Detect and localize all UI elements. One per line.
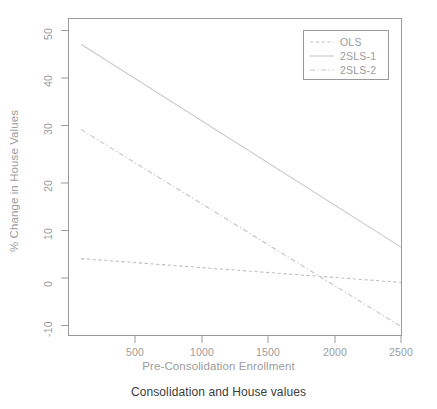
y-axis-label-text: % Change in House Values [8, 110, 20, 252]
legend-item-ols: OLS [304, 35, 388, 49]
x-axis-ticks [135, 336, 401, 343]
y-tick-text: 20 [42, 172, 54, 192]
y-tick-label: 10 [38, 224, 58, 238]
y-tick-label: 40 [38, 71, 58, 85]
legend-label: OLS [335, 36, 362, 48]
y-axis-ticks [61, 31, 68, 326]
y-tick-label: 0 [38, 271, 58, 285]
y-tick-text: 10 [42, 220, 54, 240]
x-tick-label: 1000 [177, 346, 227, 358]
y-tick-label: 20 [38, 176, 58, 190]
legend-item-2sls-2: 2SLS-2 [304, 63, 388, 77]
y-tick-text: 50 [42, 20, 54, 40]
chart-caption: Consolidation and House values [0, 385, 437, 399]
x-tick-label: 2500 [376, 346, 426, 358]
y-tick-label: 50 [38, 24, 58, 38]
y-tick-text: -10 [42, 313, 54, 337]
legend-key-solid-icon [309, 50, 335, 62]
x-tick-label: 1500 [243, 346, 293, 358]
x-axis-label: Pre-Consolidation Enrollment [0, 360, 437, 372]
y-tick-text: 0 [42, 267, 54, 287]
y-tick-text: 40 [42, 67, 54, 87]
chart-legend: OLS 2SLS-1 2SLS-2 [303, 30, 389, 80]
y-tick-label: 30 [38, 119, 58, 133]
x-tick-label: 2000 [310, 346, 360, 358]
y-axis-label: % Change in House Values [6, 86, 22, 276]
chart-figure: 50 40 30 20 10 0 -10 500 1000 1500 2000 … [0, 0, 437, 409]
y-tick-text: 30 [42, 115, 54, 135]
legend-label: 2SLS-2 [335, 64, 376, 76]
x-tick-label: 500 [110, 346, 160, 358]
legend-key-dashdot-icon [309, 64, 335, 76]
legend-label: 2SLS-1 [335, 50, 376, 62]
y-tick-label: -10 [36, 319, 60, 333]
legend-key-dashed-icon [309, 36, 335, 48]
legend-item-2sls-1: 2SLS-1 [304, 49, 388, 63]
